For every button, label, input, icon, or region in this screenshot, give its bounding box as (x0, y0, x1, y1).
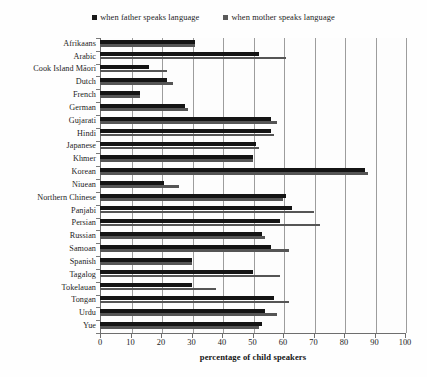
x-axis-tick-label: 40 (209, 338, 235, 347)
category-label: Yue (0, 321, 96, 330)
category-label: Samoan (0, 244, 96, 253)
category-label: Khmer (0, 154, 96, 163)
bar-mother (100, 211, 314, 214)
bar-father (100, 142, 256, 146)
bar-father (100, 78, 167, 82)
chart-legend: when father speaks language when mother … (0, 13, 427, 22)
bar-mother (100, 147, 259, 150)
bar-father (100, 91, 140, 95)
bar-father (100, 155, 253, 159)
category-label: Tokelauan (0, 283, 96, 292)
x-axis-tick-label: 50 (240, 338, 266, 347)
bar-mother (100, 172, 368, 175)
bar-mother (100, 121, 277, 124)
category-label: Dutch (0, 77, 96, 86)
category-label: Northern Chinese (0, 193, 96, 202)
x-axis-label: percentage of child speakers (100, 352, 406, 362)
bar-mother (100, 236, 265, 239)
category-label: Tagalog (0, 270, 96, 279)
bar-mother (100, 224, 320, 227)
bar-mother (100, 70, 167, 73)
bar-father (100, 245, 271, 249)
bar-father (100, 52, 259, 56)
bar-father (100, 181, 164, 185)
x-axis-tick-label: 20 (148, 338, 174, 347)
bar-father (100, 219, 280, 223)
bar-mother (100, 262, 192, 265)
category-label: German (0, 103, 96, 112)
category-label: Arabic (0, 52, 96, 61)
gridline (406, 38, 407, 333)
bar-mother (100, 185, 179, 188)
category-label: Hindi (0, 129, 96, 138)
x-axis-tick-label: 70 (301, 338, 327, 347)
square-marker-icon (92, 15, 97, 20)
x-axis-tick-label: 10 (118, 338, 144, 347)
category-label: Cook Island Māori (0, 64, 96, 73)
gridline (254, 38, 255, 333)
category-label: Gujarati (0, 116, 96, 125)
bar-father (100, 283, 192, 287)
bar-mother (100, 326, 259, 329)
gridline (345, 38, 346, 333)
bar-father (100, 40, 195, 44)
bar-mother (100, 275, 280, 278)
category-label: Korean (0, 167, 96, 176)
category-label: Spanish (0, 257, 96, 266)
category-label: Panjabi (0, 206, 96, 215)
bar-father (100, 206, 292, 210)
bar-mother (100, 57, 286, 60)
bar-mother (100, 134, 274, 137)
bar-father (100, 258, 192, 262)
x-axis-tick-label: 60 (270, 338, 296, 347)
bar-mother (100, 95, 140, 98)
x-axis-tick-label: 0 (87, 338, 113, 347)
category-label: Afrikaans (0, 39, 96, 48)
x-axis-tick-label: 100 (392, 338, 418, 347)
bar-mother (100, 288, 216, 291)
bar-father (100, 117, 271, 121)
bar-mother (100, 301, 289, 304)
category-label: Japanese (0, 141, 96, 150)
bar-father (100, 194, 286, 198)
category-label: Niuean (0, 180, 96, 189)
bar-father (100, 232, 262, 236)
bar-father (100, 309, 265, 313)
category-label: Russian (0, 231, 96, 240)
bar-father (100, 270, 253, 274)
bar-father (100, 296, 274, 300)
bar-father (100, 104, 185, 108)
bar-mother (100, 44, 195, 47)
legend-label-mother: when mother speaks language (231, 13, 334, 22)
square-marker-icon (223, 15, 228, 20)
category-label: Tongan (0, 295, 96, 304)
legend-label-father: when father speaks language (100, 13, 199, 22)
gridline (315, 38, 316, 333)
category-label: Persian (0, 218, 96, 227)
bar-father (100, 168, 365, 172)
bar-mother (100, 249, 289, 252)
bar-mother (100, 159, 253, 162)
x-axis-tick-label: 90 (362, 338, 388, 347)
bar-mother (100, 198, 283, 201)
category-label: Urdu (0, 308, 96, 317)
bar-mother (100, 313, 277, 316)
bar-chart-figure: when father speaks language when mother … (0, 0, 427, 377)
category-label: French (0, 90, 96, 99)
bar-mother (100, 82, 173, 85)
bar-father (100, 65, 149, 69)
bar-father (100, 322, 262, 326)
gridline (284, 38, 285, 333)
gridline (376, 38, 377, 333)
legend-item-father: when father speaks language (92, 13, 199, 22)
bar-mother (100, 108, 188, 111)
x-axis-tick-label: 80 (331, 338, 357, 347)
bar-father (100, 129, 271, 133)
x-axis-tick-label: 30 (179, 338, 205, 347)
gridline (223, 38, 224, 333)
legend-item-mother: when mother speaks language (223, 13, 334, 22)
